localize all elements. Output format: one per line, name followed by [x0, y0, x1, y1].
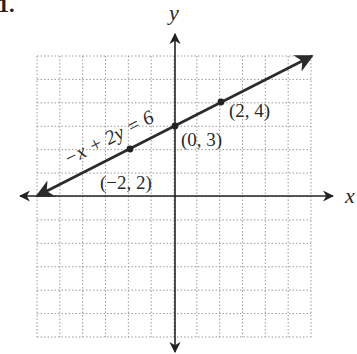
point-label-neg2-2: (−2, 2) [100, 172, 152, 194]
point-label-0-3: (0, 3) [181, 129, 222, 151]
point-neg2-2 [127, 146, 134, 153]
coordinate-plane-figure: 1. x y −x + 2y = 6 (−2, 2) (0, 3) (2, 4) [0, 0, 357, 354]
y-axis-label: y [167, 0, 179, 25]
x-axis-label: x [344, 183, 355, 208]
problem-number: 1. [0, 0, 15, 18]
point-2-4 [218, 99, 225, 106]
graph-svg: x y −x + 2y = 6 (−2, 2) (0, 3) (2, 4) [0, 0, 357, 354]
point-label-2-4: (2, 4) [229, 100, 270, 122]
point-0-3 [172, 123, 179, 130]
